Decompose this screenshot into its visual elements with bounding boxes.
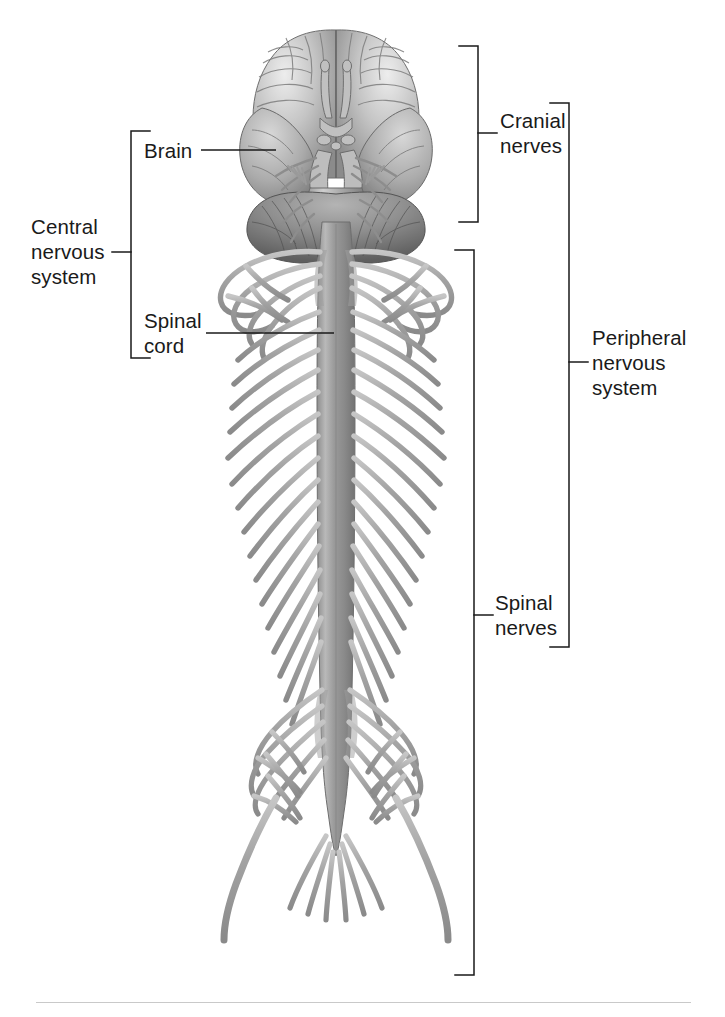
label-cranial-nerves: Cranial nerves [500, 108, 566, 158]
label-central-nervous-system: Central nervous system [31, 214, 105, 289]
footer-divider [36, 1002, 691, 1003]
label-peripheral-nervous-system: Peripheral nervous system [592, 325, 686, 400]
bracket-spinal-nerves [455, 250, 493, 975]
bracket-peripheral-nervous-system [550, 103, 588, 647]
bracket-cranial-nerves [459, 46, 497, 222]
label-spinal-nerves: Spinal nerves [495, 590, 557, 640]
label-spinal-cord: Spinal cord [144, 308, 202, 358]
nervous-system-figure [0, 0, 725, 1017]
label-brain: Brain [144, 138, 192, 163]
